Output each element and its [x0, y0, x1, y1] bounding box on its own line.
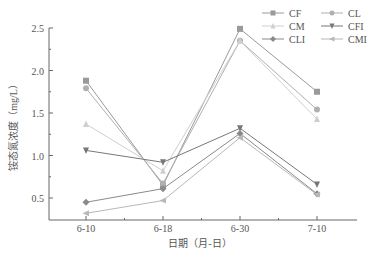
legend-item-cm: CM — [262, 21, 305, 32]
y-axis-label: 铵态氮浓度（mg/L） — [7, 79, 19, 171]
x-tick-label: 6-10 — [77, 223, 95, 234]
series-cf — [83, 26, 320, 188]
legend-label: CF — [289, 8, 302, 19]
series-cmi — [83, 135, 321, 217]
legend-label: CM — [289, 21, 305, 32]
y-tick-label: 1.5 — [32, 108, 45, 119]
legend-item-cmi: CMI — [321, 34, 367, 45]
legend-label: CLI — [289, 34, 305, 45]
legend: CFCLCMCFICLICMI — [262, 8, 367, 45]
axes: 0.51.01.52.02.56-106-186-307-10 — [32, 23, 358, 234]
x-axis-label: 日期（月-日） — [168, 238, 231, 249]
y-tick-label: 0.5 — [32, 193, 45, 204]
line-chart: 0.51.01.52.02.56-106-186-307-10 CFCLCMCF… — [0, 0, 387, 254]
x-tick-label: 6-30 — [231, 223, 249, 234]
y-tick-label: 1.0 — [32, 151, 45, 162]
legend-item-cl: CL — [321, 8, 361, 19]
series-lines — [83, 26, 321, 216]
legend-label: CL — [348, 8, 361, 19]
legend-item-cli: CLI — [262, 34, 305, 45]
series-cm — [83, 37, 320, 174]
x-tick-label: 7-10 — [308, 223, 326, 234]
legend-label: CFI — [348, 21, 364, 32]
series-cfi — [83, 125, 320, 188]
legend-item-cf: CF — [262, 8, 302, 19]
y-tick-label: 2.5 — [32, 23, 45, 34]
legend-label: CMI — [348, 34, 367, 45]
legend-item-cfi: CFI — [321, 21, 364, 32]
x-tick-label: 6-18 — [154, 223, 172, 234]
series-cli — [83, 130, 321, 206]
y-tick-label: 2.0 — [32, 66, 45, 77]
series-cl — [83, 38, 320, 187]
